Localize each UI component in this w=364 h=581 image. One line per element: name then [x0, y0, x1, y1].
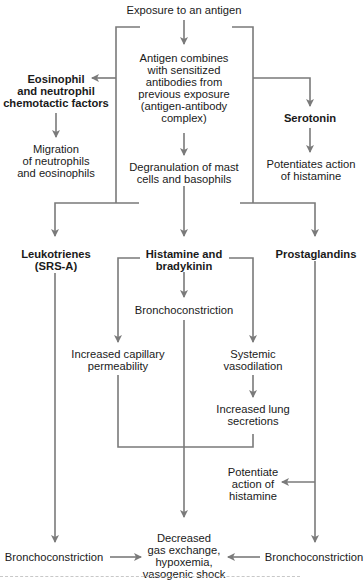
line: Degranulation of mast [124, 161, 244, 173]
node-systemic-vasodilation: Systemic vasodilation [213, 348, 293, 372]
line: secretions [208, 415, 298, 427]
line: Migration [0, 143, 112, 155]
node-prostaglandins-text: Prostaglandins [276, 248, 357, 260]
line: Decreased [134, 532, 234, 544]
line: vasogenic shock [134, 568, 234, 580]
line: permeability [66, 360, 170, 372]
node-decreased-gas-exchange: Decreased gas exchange, hypoxemia, vasog… [134, 532, 234, 580]
node-broncho-center-text: Bronchoconstriction [135, 304, 233, 316]
node-exposure: Exposure to an antigen [124, 4, 244, 16]
node-antigen-combines: Antigen combines with sensitized antibod… [124, 52, 244, 124]
line: of histamine [258, 170, 364, 182]
line: complex) [124, 112, 244, 124]
line: bradykinin [134, 260, 234, 272]
line: Antigen combines [124, 52, 244, 64]
line: gas exchange, [134, 544, 234, 556]
line: Systemic [213, 348, 293, 360]
line: Increased lung [208, 403, 298, 415]
node-leukotrienes: Leukotrienes (SRS-A) [10, 248, 102, 272]
line: hypoxemia, [134, 556, 234, 568]
line: (SRS-A) [10, 260, 102, 272]
line: Increased capillary [66, 348, 170, 360]
line: and neutrophil [0, 85, 112, 97]
bottom-dashed-divider [0, 576, 300, 577]
node-eosinophil: Eosinophil and neutrophil chemotactic fa… [0, 73, 112, 109]
node-broncho-right-text: Bronchoconstriction [265, 551, 363, 563]
node-degranulation: Degranulation of mast cells and basophil… [124, 161, 244, 185]
line: of neutrophils [0, 155, 112, 167]
line: Eosinophil [0, 73, 112, 85]
node-serotonin: Serotonin [262, 112, 358, 124]
line: Histamine and [134, 248, 234, 260]
node-prostaglandins: Prostaglandins [270, 248, 362, 260]
line: Leukotrienes [10, 248, 102, 260]
line: cells and basophils [124, 173, 244, 185]
line: previous exposure [124, 88, 244, 100]
node-bronchoconstriction-left: Bronchoconstriction [4, 551, 104, 563]
line: with sensitized [124, 64, 244, 76]
node-potentiates: Potentiates action of histamine [258, 158, 364, 182]
line: (antigen-antibody [124, 100, 244, 112]
node-bronchoconstriction-right: Bronchoconstriction [264, 551, 364, 563]
node-broncho-left-text: Bronchoconstriction [5, 551, 103, 563]
line: histamine [218, 490, 288, 502]
node-migration: Migration of neutrophils and eosinophils [0, 143, 112, 179]
node-lung-secretions: Increased lung secretions [208, 403, 298, 427]
node-histamine: Histamine and bradykinin [134, 248, 234, 272]
line: Potentiate [218, 466, 288, 478]
node-serotonin-text: Serotonin [284, 112, 336, 124]
node-bronchoconstriction-center: Bronchoconstriction [134, 304, 234, 316]
line: antibodies from [124, 76, 244, 88]
line: Potentiates action [258, 158, 364, 170]
node-capillary-permeability: Increased capillary permeability [66, 348, 170, 372]
line: vasodilation [213, 360, 293, 372]
line: action of [218, 478, 288, 490]
line: and eosinophils [0, 167, 112, 179]
node-exposure-text: Exposure to an antigen [126, 4, 241, 16]
node-potentiate-action: Potentiate action of histamine [218, 466, 288, 502]
line: chemotactic factors [0, 97, 112, 109]
